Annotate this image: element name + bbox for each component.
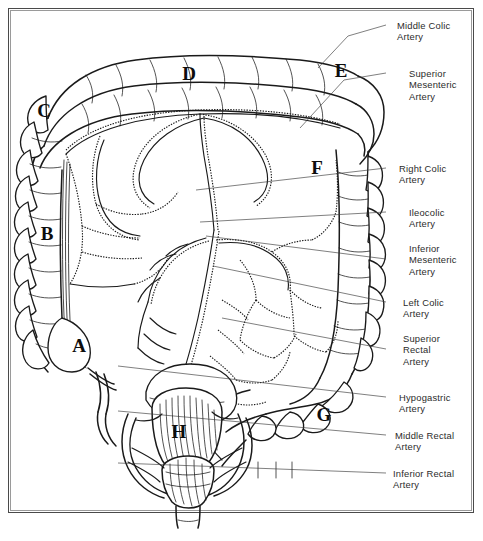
sigmoid-colon	[222, 374, 353, 466]
callout-left-colic-artery: Left Colic Artery	[403, 297, 444, 320]
left-colon-ascending	[15, 96, 117, 390]
transverse-colon	[40, 55, 358, 168]
splenic-flexure-right	[356, 76, 384, 164]
marker-g: G	[315, 405, 333, 424]
callout-right-colic-artery: Right Colic Artery	[399, 163, 446, 186]
marker-f: F	[308, 158, 326, 177]
marker-c: C	[35, 101, 53, 120]
marker-h: H	[170, 422, 188, 441]
callout-hypogastric-artery: Hypogastric Artery	[399, 392, 451, 415]
callout-middle-colic-artery: Middle Colic Artery	[397, 20, 450, 43]
figure-plate: .ol { fill:#ffffff; stroke:#1a1a1a; stro…	[0, 0, 483, 541]
callout-superior-mesenteric-artery: Superior Mesenteric Artery	[409, 68, 457, 102]
colon-outline-group	[15, 25, 387, 528]
marker-b: B	[38, 224, 56, 243]
callout-ileocolic-artery: Ileocolic Artery	[409, 207, 445, 230]
marker-a: A	[70, 336, 88, 355]
callout-superior-rectal-artery: Superior Rectal Artery	[403, 333, 440, 367]
rectum-anal-canal	[122, 364, 292, 528]
callout-middle-rectal-artery: Middle Rectal Artery	[395, 430, 454, 453]
callout-inferior-mesenteric-artery: Inferior Mesenteric Artery	[409, 243, 457, 277]
callout-inferior-rectal-artery: Inferior Rectal Artery	[393, 468, 454, 491]
marker-e: E	[332, 61, 350, 80]
marker-d: D	[180, 64, 198, 83]
right-colon-descending	[320, 150, 385, 378]
